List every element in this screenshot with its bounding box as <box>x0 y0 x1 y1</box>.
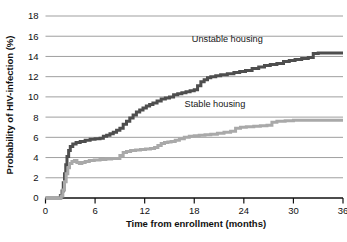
x-tick-label-0: 0 <box>43 205 48 216</box>
hiv-infection-probability-chart: 024681012141618 061218243036 Unstable ho… <box>0 0 347 242</box>
y-tick-label-12: 12 <box>28 71 39 82</box>
y-tick-label-18: 18 <box>28 10 39 21</box>
x-tick-label-12: 12 <box>139 205 150 216</box>
y-tick-label-8: 8 <box>33 112 38 123</box>
x-tick-label-30: 30 <box>288 205 299 216</box>
series-label-unstable-housing: Unstable housing <box>192 34 263 44</box>
y-tick-label-10: 10 <box>28 91 39 102</box>
y-axis-title: Probability of HIV-infection (%) <box>4 36 15 175</box>
y-tick-label-4: 4 <box>33 152 38 163</box>
x-tick-label-6: 6 <box>92 205 97 216</box>
y-tick-label-2: 2 <box>33 172 38 183</box>
x-axis-title: Time from enrollment (months) <box>126 218 266 229</box>
y-tick-label-6: 6 <box>33 132 38 143</box>
x-tick-label-24: 24 <box>239 205 250 216</box>
series-label-stable-housing: Stable housing <box>185 99 246 109</box>
y-tick-label-16: 16 <box>28 31 39 42</box>
x-tick-label-36: 36 <box>338 205 347 216</box>
figure-container: 024681012141618 061218243036 Unstable ho… <box>0 0 347 242</box>
x-tick-label-18: 18 <box>189 205 200 216</box>
y-tick-label-0: 0 <box>33 192 38 203</box>
y-tick-label-14: 14 <box>28 51 39 62</box>
